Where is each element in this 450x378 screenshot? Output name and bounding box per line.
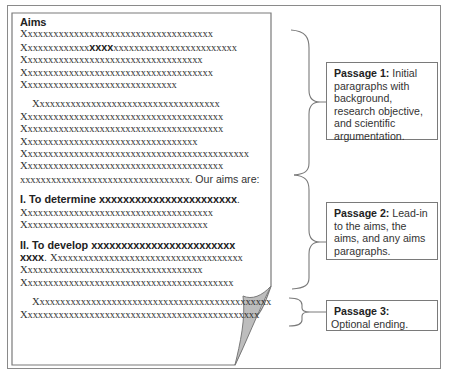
text-line: Xxxxxxxxxxxxxxxxxxxxxxxxxxxxxxxxxxxxx	[20, 67, 270, 79]
annotation-title: Passage 3:	[334, 305, 389, 317]
text-line: Xxxxxxxxxxxxxxxxxxxxxxxxxxxxxxxxxxxxxxxx…	[20, 296, 270, 308]
text-run: Xxxxxxxxxxxxxxxxxxxxxxxxxxxxxxxxxxxxx	[50, 252, 243, 263]
annotation-text: Optional ending.	[331, 318, 408, 330]
annotation-passage-1: Passage 1: Initial paragraphs with backg…	[326, 62, 438, 140]
annotation-passage-2: Passage 2: Lead-in to the aims, the aims…	[326, 202, 438, 260]
aim-2: II. To develop xxxxxxxxxxxxxxxxxxxxxxxx …	[20, 239, 270, 290]
brace-passage-3	[289, 298, 310, 326]
aim-1: I. To determine xxxxxxxxxxxxxxxxxxxxxxx.…	[20, 193, 270, 231]
paragraph-2: Xxxxxxxxxxxxxxxxxxxxxxxxxxxxxxxxxxxx Xxx…	[20, 98, 270, 186]
bold-text-run: xxxx	[89, 41, 113, 53]
text-line: Xxxxxxxxxxxxxxxxxxxxxxxxxxxxxxxxxxxxx	[20, 28, 270, 40]
document-heading: Aims	[20, 16, 270, 28]
brace-passage-1	[291, 30, 320, 175]
text-line: Xxxxxxxxxxxxxxxxxxxxxxxxxxxxxxxxxxxxxxxx…	[20, 41, 270, 54]
text-line: xxxx. Xxxxxxxxxxxxxxxxxxxxxxxxxxxxxxxxxx…	[20, 251, 270, 264]
text-line: Xxxxxxxxxxxxxxxxxxxxxxxxxxxxxxxxxxxxxxxx…	[20, 277, 270, 289]
lead-in-text: Our aims are:	[192, 173, 259, 185]
text-line: Xxxxxxxxxxxxxxxxxxxxxxxxxxxxxx	[20, 79, 270, 91]
text-line: Xxxxxxxxxxxxxxxxxxxxxxxxxxxxxxxxxxxxxxxx…	[20, 309, 270, 321]
lead-in-line: xxxxxxxxxxxxxxxxxxxxxxxxxxxxxxxxx. Our a…	[20, 173, 270, 186]
aim-1-title: I. To determine xxxxxxxxxxxxxxxxxxxxxxx.	[20, 193, 270, 206]
text-line: Xxxxxxxxxxxxxxxxxxxxxxxxxxxxxxxxxxx	[20, 54, 270, 66]
text-line: Xxxxxxxxxxxxxxxxxxxxxxxxxxxxxxxxxxxxxxx	[20, 123, 270, 135]
text-line: Xxxxxxxxxxxxxxxxxxxxxxxxxxxxxxxxxxxxxxx	[20, 160, 270, 172]
text-line: Xxxxxxxxxxxxxxxxxxxxxxxxxxxxxxxxxxxx	[20, 98, 270, 110]
text-line: Xxxxxxxxxxxxxxxxxxxxxxxxxxxxxxxxxx	[20, 136, 270, 148]
annotation-title: Passage 2:	[334, 207, 389, 219]
paragraph-1: Xxxxxxxxxxxxxxxxxxxxxxxxxxxxxxxxxxxxx Xx…	[20, 28, 270, 91]
annotation-title: Passage 1:	[334, 67, 389, 79]
aim-title-text: I. To determine xxxxxxxxxxxxxxxxxxxxxxx	[20, 193, 237, 205]
aim-2-title: II. To develop xxxxxxxxxxxxxxxxxxxxxxxx	[20, 239, 270, 251]
annotation-passage-3: Passage 3: Optional ending.	[326, 300, 438, 331]
text-line: Xxxxxxxxxxxxxxxxxxxxxxxxxxxxxxxxxxxxxxx	[20, 111, 270, 123]
text-run: Xxxxxxxxxxxxx	[20, 42, 89, 53]
document-text: Aims Xxxxxxxxxxxxxxxxxxxxxxxxxxxxxxxxxxx…	[20, 16, 270, 321]
text-line: Xxxxxxxxxxxxxxxxxxxxxxxxxxxxxxxxxxxxxxxx…	[20, 148, 270, 160]
text-line: Xxxxxxxxxxxxxxxxxxxxxxxxxxxxxxxxxxxx	[20, 219, 270, 231]
text-run: xxxxxxxxxxxxxxxxxxxxxxxxxxxxxxxxx.	[20, 174, 192, 185]
text-line: Xxxxxxxxxxxxxxxxxxxxxxxxxxxxxxxxxxx	[20, 264, 270, 276]
bold-text-run: xxxx	[20, 251, 44, 263]
brace-passage-2	[292, 175, 320, 289]
text-run: .	[237, 194, 240, 205]
text-run: xxxxxxxxxxxxxxxxxxxxxxxx	[113, 42, 237, 53]
ending-paragraph: Xxxxxxxxxxxxxxxxxxxxxxxxxxxxxxxxxxxxxxxx…	[20, 296, 270, 321]
text-line: Xxxxxxxxxxxxxxxxxxxxxxxxxxxxxxxxxxxxx	[20, 207, 270, 219]
